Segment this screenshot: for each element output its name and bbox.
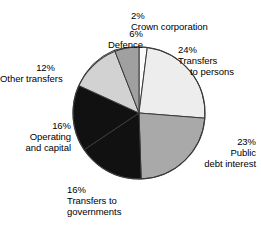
pie-label-other-transfers-percent: 12% <box>0 62 55 73</box>
pie-label-operating-and-capital-percent: 16% <box>5 120 71 131</box>
pie-label-transfers-to-governments: 16% Transfers to governments <box>67 184 121 218</box>
pie-label-transfers-to-governments-percent: 16% <box>67 184 121 195</box>
pie-label-transfers-to-governments-text-1: Transfers to <box>67 195 121 206</box>
pie-label-public-debt-interest-text-2: debt interest <box>204 158 256 169</box>
pie-label-operating-and-capital-text-2: and capital <box>5 142 71 153</box>
pie-label-operating-and-capital-text-1: Operating <box>5 131 71 142</box>
pie-chart-figure: 2% Crown corporation 24% Transfers to pe… <box>0 0 261 226</box>
pie-label-transfers-to-persons: 24% Transfers to persons <box>178 44 234 78</box>
pie-label-public-debt-interest: 23% Public debt interest <box>204 136 256 170</box>
pie-label-operating-and-capital: 16% Operating and capital <box>5 120 71 154</box>
pie-label-other-transfers-text: Other transfers <box>0 73 55 84</box>
pie-label-transfers-to-persons-text-1: Transfers <box>178 55 234 66</box>
pie-label-public-debt-interest-text-1: Public <box>204 147 256 158</box>
pie-label-defence: 6% Defence <box>65 28 143 50</box>
pie-label-other-transfers: 12% Other transfers <box>0 62 55 84</box>
pie-label-defence-text: Defence <box>65 39 143 50</box>
pie-label-transfers-to-governments-text-2: governments <box>67 206 121 217</box>
pie-slice-public-debt-interest[interactable] <box>139 113 205 179</box>
pie-label-transfers-to-persons-text-2: to persons <box>178 66 234 77</box>
pie-label-defence-percent: 6% <box>65 28 143 39</box>
pie-label-crown-corporation-percent: 2% <box>131 10 208 21</box>
pie-label-transfers-to-persons-percent: 24% <box>178 44 234 55</box>
pie-label-public-debt-interest-percent: 23% <box>204 136 256 147</box>
